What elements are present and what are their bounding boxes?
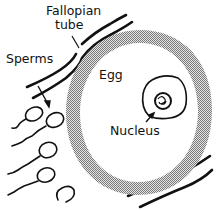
sperms <box>8 104 74 202</box>
zona-pellucida <box>66 30 212 195</box>
sperm-1 <box>12 104 45 128</box>
fallopian-pointer <box>72 36 79 48</box>
sperm-4 <box>8 165 57 195</box>
sperms-label: Sperms <box>6 51 53 66</box>
fallopian-label-line1: Fallopian <box>46 3 101 18</box>
sperm-2 <box>12 110 66 146</box>
egg-label: Egg <box>99 67 123 82</box>
fallopian-label-line2: tube <box>55 17 84 32</box>
nucleus-label: Nucleus <box>110 123 160 138</box>
egg <box>66 30 212 195</box>
fertilization-diagram: Fallopian tube Sperms Egg Nucleus <box>0 0 222 210</box>
sperm-5 <box>57 186 75 202</box>
nucleus <box>155 93 171 109</box>
